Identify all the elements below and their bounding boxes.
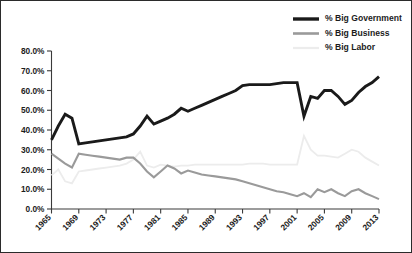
y-tick-label: 40.0% bbox=[21, 125, 45, 135]
series-line-big-government bbox=[52, 77, 380, 144]
y-tick-label: 70.0% bbox=[21, 66, 45, 76]
y-tick-label: 30.0% bbox=[21, 145, 45, 155]
x-tick-label: 1965 bbox=[33, 212, 53, 232]
y-tick-label: 60.0% bbox=[21, 86, 45, 96]
x-tick-label: 1985 bbox=[169, 212, 189, 232]
chart-figure: 0.0%10.0%20.0%30.0%40.0%50.0%60.0%70.0%8… bbox=[0, 0, 412, 253]
y-tick-label: 20.0% bbox=[21, 165, 45, 175]
x-tick-label: 1973 bbox=[87, 212, 107, 232]
y-tick-label: 0.0% bbox=[26, 204, 46, 214]
legend-label: % Big Government bbox=[325, 13, 402, 23]
legend-label: % Big Business bbox=[325, 28, 390, 38]
y-tick-label: 50.0% bbox=[21, 105, 45, 115]
y-axis-ticks: 0.0%10.0%20.0%30.0%40.0%50.0%60.0%70.0%8… bbox=[21, 46, 52, 214]
series-lines bbox=[52, 77, 380, 199]
x-tick-label: 1989 bbox=[197, 212, 217, 232]
x-tick-label: 1969 bbox=[60, 212, 80, 232]
x-tick-label: 2009 bbox=[333, 212, 353, 232]
x-tick-label: 1977 bbox=[115, 212, 135, 232]
line-chart: 0.0%10.0%20.0%30.0%40.0%50.0%60.0%70.0%8… bbox=[1, 1, 412, 253]
x-tick-label: 1981 bbox=[142, 212, 162, 232]
y-tick-label: 10.0% bbox=[21, 184, 45, 194]
x-tick-label: 2001 bbox=[278, 212, 298, 232]
series-line-big-business bbox=[52, 154, 380, 199]
x-tick-label: 1993 bbox=[224, 212, 244, 232]
x-tick-label: 1997 bbox=[251, 212, 271, 232]
x-axis-ticks: 1965196919731977198119851989199319972001… bbox=[33, 209, 381, 232]
y-tick-label: 80.0% bbox=[21, 46, 45, 56]
x-tick-label: 2005 bbox=[306, 212, 326, 232]
axis-lines bbox=[52, 51, 380, 209]
legend-label: % Big Labor bbox=[325, 42, 376, 52]
chart-legend: % Big Government% Big Business% Big Labo… bbox=[293, 13, 402, 52]
x-tick-label: 2013 bbox=[360, 212, 380, 232]
